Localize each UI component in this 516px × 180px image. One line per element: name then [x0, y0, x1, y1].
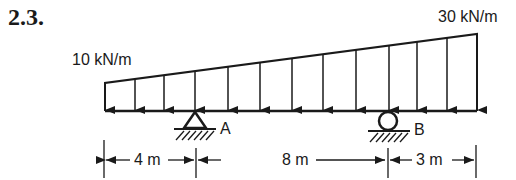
load-envelope [105, 34, 477, 111]
load-arrows [105, 34, 477, 110]
support-a-label: A [220, 120, 231, 137]
dim-left-overhang: 4 m [134, 151, 161, 169]
dim-span: 8 m [282, 151, 309, 169]
dim-right-overhang: 3 m [416, 151, 443, 169]
pin-support-icon [174, 112, 216, 140]
support-b-label: B [414, 121, 425, 138]
roller-support-icon [368, 112, 410, 142]
